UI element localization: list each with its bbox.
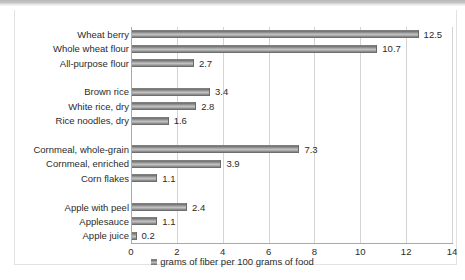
category-label: Wheat berry — [0, 29, 129, 40]
bar-value-label: 2.7 — [199, 58, 212, 69]
legend-label: grams of fiber per 100 grams of food — [160, 256, 314, 267]
bar-value-label: 12.5 — [424, 29, 443, 40]
chart-bar-rows: Wheat berry12.5Whole wheat flour10.7All-… — [15, 27, 458, 243]
bar[interactable] — [132, 232, 137, 240]
bar[interactable] — [132, 117, 169, 125]
category-label: Corn flakes — [0, 173, 129, 184]
category-label: White rice, dry — [0, 101, 129, 112]
page-top-band — [0, 0, 465, 6]
bar[interactable] — [132, 217, 157, 225]
bar[interactable] — [132, 203, 187, 211]
bar[interactable] — [132, 160, 221, 168]
fiber-bar-chart: Wheat berry12.5Whole wheat flour10.7All-… — [14, 10, 457, 265]
bar[interactable] — [132, 102, 196, 110]
legend-color-swatch — [151, 259, 157, 265]
category-label: All-purpose flour — [0, 58, 129, 69]
chart-legend: grams of fiber per 100 grams of food — [0, 256, 465, 267]
bar-value-label: 2.8 — [201, 101, 214, 112]
category-label: Cornmeal, whole-grain — [0, 144, 129, 155]
bar-value-label: 2.4 — [192, 202, 205, 213]
category-label: Applesauce — [0, 216, 129, 227]
bar[interactable] — [132, 30, 419, 38]
bar-value-label: 3.4 — [215, 86, 228, 97]
bar-value-label: 1.1 — [162, 216, 175, 227]
category-label: Rice noodles, dry — [0, 115, 129, 126]
category-label: Cornmeal, enriched — [0, 158, 129, 169]
x-axis-line — [131, 243, 453, 244]
category-label: Brown rice — [0, 86, 129, 97]
bar[interactable] — [132, 145, 299, 153]
bar[interactable] — [132, 174, 157, 182]
bar[interactable] — [132, 59, 194, 67]
y-axis-line — [131, 27, 132, 243]
bar-value-label: 1.1 — [162, 173, 175, 184]
category-label: Apple with peel — [0, 202, 129, 213]
bar-value-label: 10.7 — [382, 43, 401, 54]
category-label: Apple juice — [0, 230, 129, 241]
bar-value-label: 7.3 — [304, 144, 317, 155]
bar[interactable] — [132, 88, 210, 96]
bar-value-label: 3.9 — [226, 158, 239, 169]
bar-value-label: 0.2 — [142, 230, 155, 241]
bar[interactable] — [132, 45, 377, 53]
bar-value-label: 1.6 — [174, 115, 187, 126]
category-label: Whole wheat flour — [0, 43, 129, 54]
